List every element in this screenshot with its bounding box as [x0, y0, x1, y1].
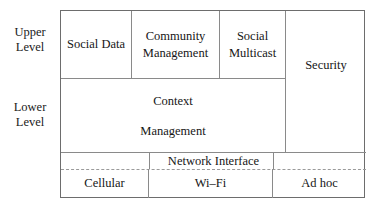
level-label-upper-line2: Level [2, 40, 58, 55]
block-community-management-line2: Management [143, 45, 208, 62]
network-strip-divider-right [273, 153, 274, 169]
block-social-multicast: Social Multicast [220, 11, 286, 79]
network-strip-divider-left [149, 153, 150, 169]
block-security-label: Security [305, 57, 347, 74]
diagram-frame: Social Data Community Management Social … [60, 10, 365, 198]
level-label-lower-line1: Lower [2, 100, 58, 115]
block-network-interface-label: Network Interface [168, 154, 259, 168]
block-wifi-label: Wi–Fi [195, 175, 226, 192]
block-context-management-line1: Context [153, 86, 193, 116]
block-social-data-label: Social Data [67, 36, 125, 53]
block-context-management: Context Management [61, 79, 286, 153]
level-label-upper: Upper Level [2, 25, 58, 55]
level-label-lower: Lower Level [2, 100, 58, 130]
block-adhoc-label: Ad hoc [301, 175, 337, 192]
level-label-upper-line1: Upper [2, 25, 58, 40]
block-social-data: Social Data [61, 11, 132, 79]
block-cellular: Cellular [61, 169, 149, 198]
level-label-lower-line2: Level [2, 115, 58, 130]
architecture-diagram: Upper Level Lower Level Social Data Comm… [0, 0, 380, 215]
block-wifi: Wi–Fi [149, 169, 273, 198]
block-community-management-line1: Community [146, 28, 206, 45]
block-cellular-label: Cellular [84, 175, 124, 192]
block-social-multicast-line1: Social [237, 28, 268, 45]
block-context-management-line2: Management [140, 116, 205, 146]
block-community-management: Community Management [132, 11, 220, 79]
block-network-interface: Network Interface [61, 153, 366, 169]
block-adhoc: Ad hoc [273, 169, 366, 198]
block-social-multicast-line2: Multicast [229, 45, 276, 62]
block-security: Security [286, 11, 366, 153]
